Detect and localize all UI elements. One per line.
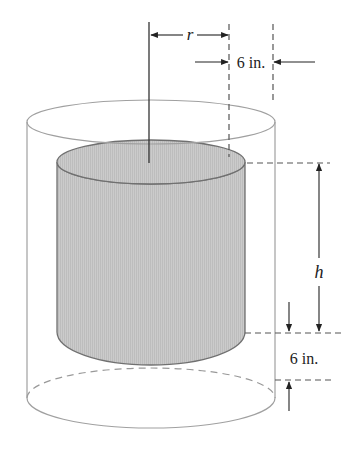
inner-top bbox=[57, 140, 245, 184]
outer-bottom-back-edge bbox=[27, 368, 275, 398]
top-gap-dimension: 6 in. bbox=[195, 54, 315, 71]
cylinder-diagram: r 6 in. h 6 in. bbox=[0, 0, 361, 450]
radius-label: r bbox=[187, 25, 194, 44]
inner-cylinder bbox=[57, 140, 245, 365]
inner-body bbox=[57, 162, 245, 365]
bottom-gap-dimension: 6 in. bbox=[245, 302, 345, 411]
outer-top-ellipse bbox=[27, 100, 275, 144]
outer-bottom-front-edge bbox=[27, 398, 275, 428]
height-label: h bbox=[315, 262, 324, 282]
radius-dimension: r bbox=[151, 25, 228, 44]
bottom-gap-label: 6 in. bbox=[290, 350, 318, 367]
top-gap-label: 6 in. bbox=[237, 54, 265, 71]
